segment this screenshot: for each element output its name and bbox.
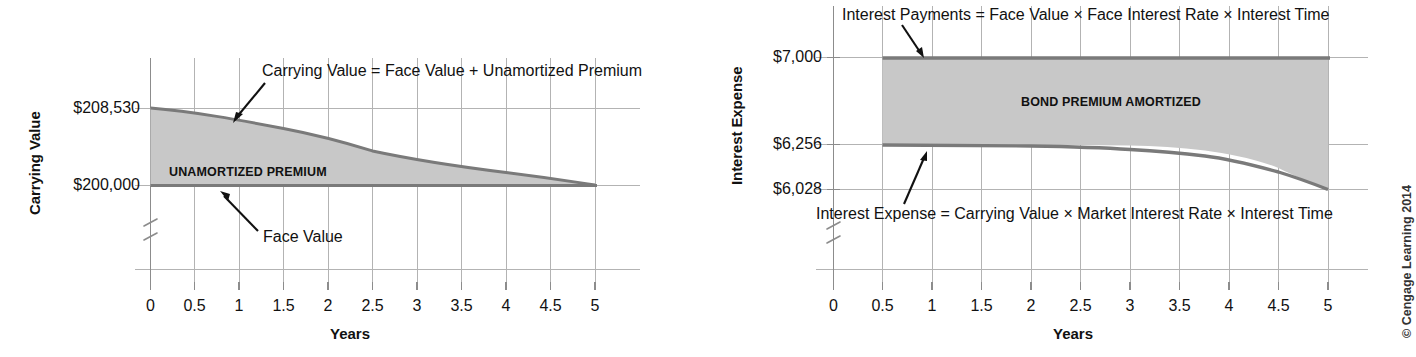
y-tick-label-200000: $200,000 — [28, 176, 140, 194]
x-tick-label-4: 4 — [502, 297, 511, 315]
bond-premium-amortized-label: BOND PREMIUM AMORTIZED — [1021, 95, 1201, 109]
bond-premium-amortized-band — [883, 58, 1329, 189]
y-axis-title: Carrying Value — [26, 111, 43, 215]
x-tick-label-2: 2 — [324, 297, 333, 315]
x-axis-ticks — [834, 282, 1329, 290]
carrying-value-chart-panel: Carrying Value $208,530 $200,000 0 0.5 1… — [0, 0, 708, 357]
interest-expense-chart-panel: Interest Expense $7,000 $6,256 $6,028 0 … — [708, 0, 1416, 357]
x-tick-label-1: 1 — [928, 297, 937, 315]
copyright-notice: © Cengage Learning 2014 — [1400, 185, 1414, 338]
x-tick-label-0: 0 — [829, 297, 838, 315]
x-tick-label-0: 0 — [146, 297, 155, 315]
y-tick-label-208530: $208,530 — [28, 99, 140, 117]
x-axis-title: Years — [1053, 325, 1093, 342]
x-tick-label-3: 3 — [1126, 297, 1135, 315]
x-tick-label-2-5: 2.5 — [1069, 297, 1091, 315]
x-tick-label-3-5: 3.5 — [1168, 297, 1190, 315]
y-tick-label-6256: $6,256 — [718, 135, 822, 153]
interest-expense-annotation: Interest Expense = Carrying Value × Mark… — [816, 205, 1333, 223]
x-tick-label-4: 4 — [1225, 297, 1234, 315]
x-tick-label-5: 5 — [591, 297, 600, 315]
y-axis-title: Interest Expense — [728, 67, 745, 185]
x-axis-title: Years — [330, 325, 370, 342]
y-tick-label-7000: $7,000 — [718, 48, 822, 66]
x-tick-label-2-5: 2.5 — [361, 297, 383, 315]
x-tick-label-1: 1 — [235, 297, 244, 315]
x-tick-label-2: 2 — [1027, 297, 1036, 315]
x-tick-label-3-5: 3.5 — [450, 297, 472, 315]
carrying-value-annotation: Carrying Value = Face Value + Unamortize… — [262, 62, 642, 80]
carrying-value-arrow-icon — [233, 83, 265, 123]
unamortized-premium-label: UNAMORTIZED PREMIUM — [169, 165, 327, 179]
x-tick-label-4-5: 4.5 — [539, 297, 561, 315]
interest-payments-annotation: Interest Payments = Face Value × Face In… — [842, 6, 1330, 24]
y-tick-label-6028: $6,028 — [718, 180, 822, 198]
x-tick-label-1-5: 1.5 — [970, 297, 992, 315]
interest-expense-arrow-icon — [904, 151, 927, 204]
x-tick-label-5: 5 — [1324, 297, 1333, 315]
x-tick-label-0-5: 0.5 — [183, 297, 205, 315]
x-tick-label-1-5: 1.5 — [272, 297, 294, 315]
x-axis-ticks — [151, 282, 596, 290]
x-tick-label-3: 3 — [413, 297, 422, 315]
bond-premium-figure: Carrying Value $208,530 $200,000 0 0.5 1… — [0, 0, 1416, 357]
face-value-annotation: Face Value — [263, 228, 343, 246]
interest-payments-arrow-icon — [902, 25, 924, 58]
x-tick-label-4-5: 4.5 — [1267, 297, 1289, 315]
x-tick-label-0-5: 0.5 — [871, 297, 893, 315]
